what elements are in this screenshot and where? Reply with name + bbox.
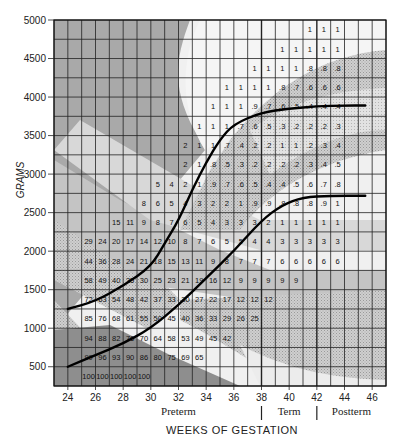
cell-value: 82	[112, 334, 120, 343]
cell-value: 1	[294, 64, 298, 73]
x-tick-label: 32	[173, 392, 185, 403]
y-tick-label: 1000	[24, 323, 47, 334]
cell-value: 8	[142, 199, 146, 208]
cell-value: 1	[335, 218, 339, 227]
cell-value: 1	[280, 45, 284, 54]
x-tick-label: 46	[367, 392, 379, 403]
cell-value: .2	[251, 141, 257, 150]
cell-value: 29	[223, 314, 231, 323]
cell-value: 2	[266, 218, 270, 227]
cell-value: 1	[335, 199, 339, 208]
cell-value: 1	[294, 218, 298, 227]
cell-value: 76	[98, 314, 106, 323]
cell-value: 33	[209, 314, 217, 323]
cell-value: 2	[225, 199, 229, 208]
cell-value: 3	[225, 218, 229, 227]
cell-value: .9	[265, 199, 271, 208]
x-tick-label: 42	[311, 392, 323, 403]
cell-value: 40	[112, 276, 120, 285]
cell-value: 44	[84, 257, 92, 266]
x-tick-label: 24	[62, 392, 74, 403]
cell-value: 100	[110, 372, 123, 381]
x-tick-label: 44	[339, 392, 351, 403]
cell-value: 1	[252, 64, 256, 73]
cell-value: .2	[293, 160, 299, 169]
cell-value: 24	[98, 237, 106, 246]
cell-value: 1	[294, 141, 298, 150]
cell-value: 23	[167, 276, 175, 285]
cell-value: 1	[335, 45, 339, 54]
cell-value: 5	[197, 218, 201, 227]
cell-value: 3	[308, 237, 312, 246]
cell-value: 3	[294, 237, 298, 246]
cell-value: 12	[237, 295, 245, 304]
y-tick-label: 3500	[24, 130, 47, 141]
x-axis-label: WEEKS OF GESTATION	[166, 424, 298, 436]
x-tick-label: 40	[284, 392, 296, 403]
cell-value: .8	[307, 199, 313, 208]
cell-value: 37	[154, 295, 162, 304]
cell-value: 1	[308, 45, 312, 54]
cell-value: 1	[308, 218, 312, 227]
cell-value: 12	[264, 295, 272, 304]
cell-value: 58	[167, 334, 175, 343]
cell-value: 5	[169, 199, 173, 208]
x-tick-label: 30	[145, 392, 157, 403]
cell-value: 90	[126, 353, 134, 362]
cell-value: 61	[126, 314, 134, 323]
x-tick-label: 36	[228, 392, 240, 403]
cell-value: 1	[211, 102, 215, 111]
cell-value: 24	[126, 257, 134, 266]
cell-value: 1	[335, 25, 339, 34]
cell-value: 75	[167, 353, 175, 362]
cell-value: 1	[322, 45, 326, 54]
cell-value: .8	[279, 83, 285, 92]
cell-value: 25	[154, 276, 162, 285]
cell-value: 1	[225, 83, 229, 92]
cell-value: 12	[154, 237, 162, 246]
cell-value: .3	[307, 160, 313, 169]
cell-value: 7	[266, 257, 270, 266]
cell-value: 7	[197, 237, 201, 246]
cell-value: 3	[197, 199, 201, 208]
cell-value: .4	[238, 141, 244, 150]
cell-value: 17	[126, 237, 134, 246]
cell-value: .6	[307, 180, 313, 189]
cell-value: 1	[252, 83, 256, 92]
cell-value: 9	[211, 257, 215, 266]
cell-value: .9	[251, 199, 257, 208]
cell-value: 11	[195, 257, 203, 266]
cell-value: .2	[265, 160, 271, 169]
cell-value: .8	[210, 160, 216, 169]
cell-value: .6	[251, 122, 257, 131]
cell-value: 100	[124, 372, 137, 381]
cell-value: 9	[142, 218, 146, 227]
cell-value: 5	[225, 237, 229, 246]
cell-value: 1	[239, 83, 243, 92]
cell-value: .9	[321, 199, 327, 208]
cell-value: 1	[239, 102, 243, 111]
cell-value: 85	[84, 314, 92, 323]
cell-value: 28	[112, 257, 120, 266]
neonatal-mortality-chart: 111111111111.8.8.81111.8.7.6.6.6111.9.7.…	[0, 0, 398, 448]
cell-value: 88	[98, 334, 106, 343]
cell-value: 1	[280, 64, 284, 73]
cell-value: 1	[225, 102, 229, 111]
cell-value: 45	[209, 334, 217, 343]
cell-value: 21	[181, 276, 189, 285]
y-tick-label: 4000	[24, 92, 47, 103]
cell-value: .2	[279, 160, 285, 169]
cell-value: .8	[307, 64, 313, 73]
cell-value: .3	[334, 122, 340, 131]
cell-value: 5	[156, 180, 160, 189]
cell-value: 17	[223, 295, 231, 304]
cell-value: 1	[197, 122, 201, 131]
cell-value: 49	[98, 276, 106, 285]
cell-value: .5	[251, 180, 257, 189]
cell-value: .6	[321, 83, 327, 92]
cell-value: 2	[183, 180, 187, 189]
cell-value: .5	[224, 160, 230, 169]
cell-value: 9	[294, 276, 298, 285]
cell-value: 3	[280, 237, 284, 246]
cell-value: .2	[251, 160, 257, 169]
